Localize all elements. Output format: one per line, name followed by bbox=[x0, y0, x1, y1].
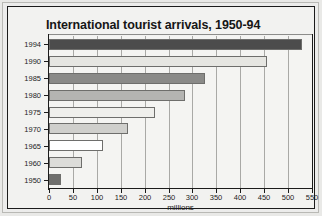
y-tick-mark bbox=[44, 112, 48, 113]
y-tick-label: 1950 bbox=[18, 176, 41, 185]
y-tick-label: 1985 bbox=[18, 74, 41, 83]
x-tick-label: 400 bbox=[228, 193, 252, 202]
bar-1950 bbox=[49, 174, 61, 185]
plot-right-edge bbox=[312, 34, 313, 189]
gridline bbox=[288, 36, 289, 188]
y-tick-mark bbox=[44, 61, 48, 62]
bar-1965 bbox=[49, 140, 103, 151]
bar-1970 bbox=[49, 123, 128, 134]
y-tick-label: 1960 bbox=[18, 159, 41, 168]
x-tick-label: 550 bbox=[300, 193, 322, 202]
x-tick-label: 500 bbox=[276, 193, 300, 202]
bar-1994 bbox=[49, 39, 302, 50]
bar-1960 bbox=[49, 157, 82, 168]
y-tick-label: 1994 bbox=[18, 40, 41, 49]
y-tick-mark bbox=[44, 95, 48, 96]
bar-1980 bbox=[49, 90, 185, 101]
x-axis-line bbox=[48, 188, 313, 189]
y-tick-mark bbox=[44, 146, 48, 147]
bar-1990 bbox=[49, 56, 267, 67]
x-tick-label: 300 bbox=[180, 193, 204, 202]
y-tick-label: 1975 bbox=[18, 108, 41, 117]
x-tick-label: 450 bbox=[252, 193, 276, 202]
y-tick-mark bbox=[44, 44, 48, 45]
bar-1985 bbox=[49, 73, 205, 84]
x-axis-label: millions bbox=[49, 203, 312, 212]
y-tick-label: 1970 bbox=[18, 125, 41, 134]
y-tick-mark bbox=[44, 129, 48, 130]
x-tick-label: 250 bbox=[157, 193, 181, 202]
x-tick-label: 0 bbox=[37, 193, 61, 202]
chart-figure: International tourist arrivals, 1950-94 … bbox=[0, 0, 322, 216]
x-tick-label: 150 bbox=[109, 193, 133, 202]
x-tick-label: 100 bbox=[85, 193, 109, 202]
chart-card: International tourist arrivals, 1950-94 … bbox=[7, 6, 315, 209]
y-tick-label: 1980 bbox=[18, 91, 41, 100]
x-tick-label: 50 bbox=[61, 193, 85, 202]
x-tick-label: 350 bbox=[204, 193, 228, 202]
y-tick-mark bbox=[44, 180, 48, 181]
y-tick-label: 1990 bbox=[18, 57, 41, 66]
bar-1975 bbox=[49, 107, 155, 118]
chart-title: International tourist arrivals, 1950-94 bbox=[46, 18, 260, 32]
y-tick-label: 1965 bbox=[18, 142, 41, 151]
x-tick-label: 200 bbox=[133, 193, 157, 202]
y-tick-mark bbox=[44, 78, 48, 79]
y-tick-mark bbox=[44, 163, 48, 164]
plot-top-edge bbox=[48, 34, 313, 35]
